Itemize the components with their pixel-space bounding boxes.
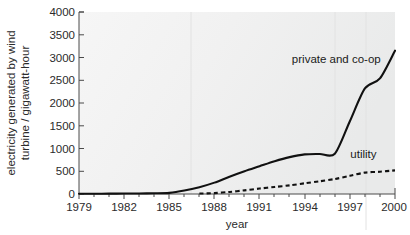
x-tick-label: 1982 [111, 201, 137, 213]
x-tick-label: 1985 [156, 201, 182, 213]
series-annotation-private-and-co-op: private and co-op [292, 53, 381, 65]
x-tick-label: 1979 [66, 201, 92, 213]
y-axis-tick-labels: 0 500 1000 1500 2000 2500 3000 3500 4000 [49, 6, 75, 200]
x-axis-tick-labels: 1979 1982 1985 1988 1991 1994 1997 2000 [66, 201, 407, 213]
series-annotation-utility: utility [350, 148, 376, 160]
y-tick-label: 3500 [49, 29, 75, 41]
y-tick-label: 3000 [49, 52, 75, 64]
x-tick-label: 1997 [337, 201, 363, 213]
chart-canvas: 0 500 1000 1500 2000 2500 3000 3500 4000 [0, 0, 410, 235]
x-axis-title: year [226, 218, 249, 230]
y-axis-title-line2: turbine / gigawatt-hour [19, 46, 31, 161]
x-tick-label: 1988 [201, 201, 227, 213]
y-tick-label: 0 [69, 188, 75, 200]
x-axis-ticks [79, 194, 395, 199]
y-tick-label: 1000 [49, 143, 75, 155]
y-tick-label: 1500 [49, 120, 75, 132]
wind-electricity-line-chart: 0 500 1000 1500 2000 2500 3000 3500 4000 [0, 0, 410, 235]
x-tick-label: 2000 [381, 201, 407, 213]
x-tick-label: 1991 [246, 201, 272, 213]
x-tick-label: 1994 [292, 201, 318, 213]
y-tick-label: 2000 [49, 97, 75, 109]
plot-area-background [79, 12, 395, 194]
y-tick-label: 4000 [49, 6, 75, 18]
y-tick-label: 500 [56, 165, 75, 177]
y-tick-label: 2500 [49, 74, 75, 86]
y-axis-title-line1: electricity generated by wind [5, 30, 17, 175]
